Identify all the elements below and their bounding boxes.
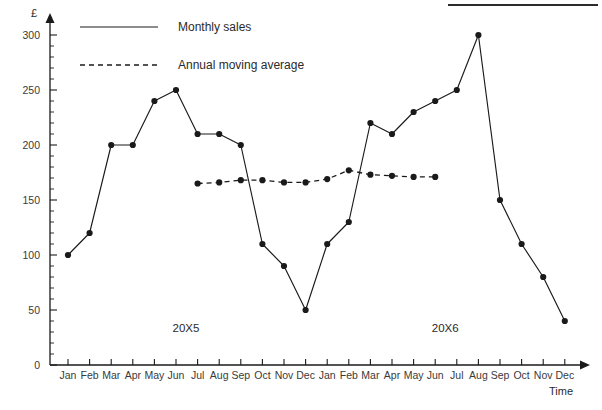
monthly-sales-point [303,307,309,313]
x-tick-label: Jun [168,369,185,381]
period-label: 20X6 [432,322,459,334]
x-tick-label: Oct [513,369,529,381]
x-tick-label: Mar [102,369,121,381]
y-tick-label: 150 [22,194,40,206]
moving-average-line [198,170,436,183]
x-axis-arrow [580,361,590,370]
legend-label-monthly-sales: Monthly sales [178,20,251,34]
monthly-sales-point [367,120,373,126]
moving-average-point [324,176,330,182]
x-tick-label: May [144,369,165,381]
monthly-sales-point [454,87,460,93]
monthly-sales-point [432,98,438,104]
monthly-sales-point [151,98,157,104]
period-labels: 20X520X6 [173,322,459,334]
x-tick-label: Nov [534,369,553,381]
monthly-sales-point [540,274,546,280]
moving-average-point [432,174,438,180]
monthly-sales-point [238,142,244,148]
monthly-sales-point [87,230,93,236]
moving-average-point [216,179,222,185]
x-tick-label: Nov [275,369,294,381]
y-tick-label: 50 [28,304,40,316]
x-tick-label: Oct [254,369,270,381]
moving-average-point [367,172,373,178]
monthly-sales-point [281,263,287,269]
moving-average-point [411,174,417,180]
x-tick-label: Jan [60,369,77,381]
monthly-sales-point [346,219,352,225]
monthly-sales-point [108,142,114,148]
monthly-sales-point [173,87,179,93]
x-axis-title: Time [549,385,573,397]
monthly-sales-point [324,241,330,247]
y-axis-arrow [46,13,55,23]
x-tick-label: Dec [555,369,574,381]
x-tick-label: Jul [191,369,204,381]
chart-legend: Monthly salesAnnual moving average [80,20,304,72]
x-axis: JanFebMarAprMayJunJulAugSepOctNovDecJanF… [50,359,590,381]
moving-average-point [303,179,309,185]
monthly-sales-point [130,142,136,148]
x-tick-label: Sep [491,369,510,381]
x-tick-label: Dec [296,369,315,381]
x-tick-label: Jun [427,369,444,381]
y-tick-label: 300 [22,29,40,41]
x-tick-label: Apr [125,369,142,381]
y-axis: 050100150200250300 [22,13,57,371]
x-tick-label: Jul [450,369,463,381]
x-tick-label: Sep [231,369,250,381]
chart-screenshot: 050100150200250300 JanFebMarAprMayJunJul… [0,0,602,410]
monthly-sales-point [195,131,201,137]
x-tick-label: May [404,369,425,381]
moving-average-point [259,177,265,183]
monthly-sales-point [389,131,395,137]
plot-area [65,32,568,324]
moving-average-point [281,179,287,185]
monthly-sales-point [475,32,481,38]
sales-line-chart: 050100150200250300 JanFebMarAprMayJunJul… [0,0,602,410]
monthly-sales-point [216,131,222,137]
y-axis-currency-label: £ [31,7,37,19]
monthly-sales-point [497,197,503,203]
monthly-sales-point [519,241,525,247]
monthly-sales-line [68,35,565,321]
legend-label-moving-average: Annual moving average [178,58,304,72]
x-tick-label: Mar [361,369,380,381]
moving-average-point [346,167,352,173]
period-label: 20X5 [173,322,200,334]
x-tick-label: Feb [81,369,99,381]
monthly-sales-point [259,241,265,247]
y-tick-label: 100 [22,249,40,261]
moving-average-point [238,177,244,183]
x-tick-label: Apr [384,369,401,381]
moving-average-point [195,180,201,186]
x-tick-label: Jan [319,369,336,381]
y-tick-label: 200 [22,139,40,151]
moving-average-point [389,173,395,179]
y-tick-label: 0 [34,359,40,371]
x-tick-label: Aug [210,369,229,381]
monthly-sales-point [562,318,568,324]
x-tick-label: Aug [469,369,488,381]
monthly-sales-point [65,252,71,258]
x-tick-label: Feb [340,369,358,381]
y-tick-label: 250 [22,84,40,96]
monthly-sales-point [411,109,417,115]
